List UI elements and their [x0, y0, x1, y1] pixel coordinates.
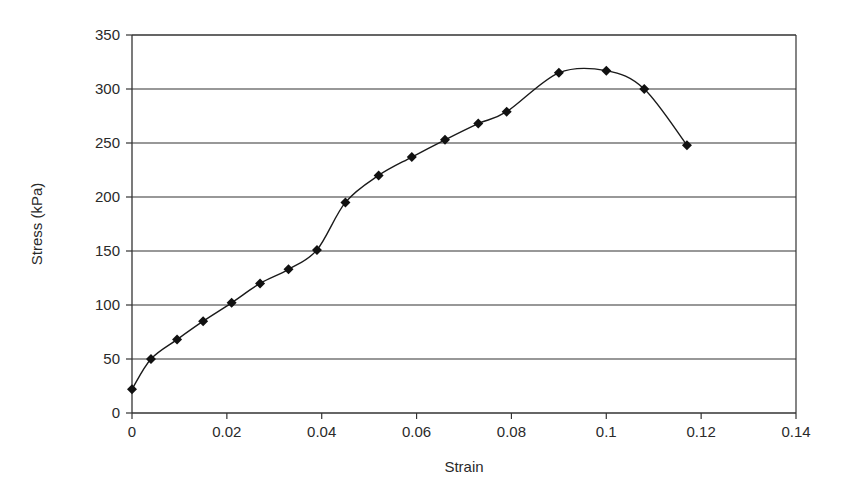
- x-tick-label: 0.14: [781, 423, 810, 440]
- y-tick-label: 200: [95, 188, 120, 205]
- diamond-marker: [473, 119, 483, 129]
- gridlines: [132, 35, 796, 359]
- diamond-marker: [554, 68, 564, 78]
- y-tick-label: 150: [95, 242, 120, 259]
- stress-strain-chart: 050100150200250300350 00.020.040.060.080…: [0, 0, 855, 503]
- x-tick-label: 0.08: [497, 423, 526, 440]
- x-axis-ticks: 00.020.040.060.080.10.120.14: [128, 413, 811, 440]
- y-tick-label: 300: [95, 80, 120, 97]
- stress-curve: [132, 68, 687, 389]
- y-tick-label: 0: [112, 404, 120, 421]
- diamond-marker: [601, 66, 611, 76]
- diamond-marker: [407, 152, 417, 162]
- y-tick-label: 100: [95, 296, 120, 313]
- axes: [132, 35, 796, 413]
- diamond-marker: [284, 264, 294, 274]
- x-tick-label: 0.06: [402, 423, 431, 440]
- diamond-marker: [127, 384, 137, 394]
- y-tick-label: 250: [95, 134, 120, 151]
- diamond-marker: [198, 316, 208, 326]
- diamond-marker: [374, 170, 384, 180]
- diamond-marker: [255, 278, 265, 288]
- x-tick-label: 0.04: [307, 423, 336, 440]
- y-axis-title: Stress (kPa): [28, 183, 45, 266]
- data-point-markers: [127, 66, 692, 395]
- diamond-marker: [172, 335, 182, 345]
- diamond-marker: [227, 298, 237, 308]
- x-axis-title: Strain: [444, 458, 483, 475]
- diamond-marker: [682, 140, 692, 150]
- y-tick-label: 350: [95, 26, 120, 43]
- x-tick-label: 0.02: [212, 423, 241, 440]
- diamond-marker: [502, 107, 512, 117]
- x-tick-label: 0.1: [596, 423, 617, 440]
- x-tick-label: 0: [128, 423, 136, 440]
- y-axis-ticks: 050100150200250300350: [95, 26, 132, 421]
- y-tick-label: 50: [103, 350, 120, 367]
- x-tick-label: 0.12: [687, 423, 716, 440]
